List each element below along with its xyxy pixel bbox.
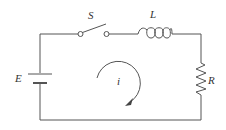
wire-top-left bbox=[40, 34, 78, 73]
current-label: i bbox=[117, 75, 120, 87]
switch-terminal-right bbox=[104, 32, 109, 37]
switch-terminal-left bbox=[78, 32, 83, 37]
battery bbox=[28, 74, 52, 83]
switch bbox=[78, 24, 109, 37]
arrowhead-icon bbox=[125, 98, 133, 106]
wires bbox=[40, 34, 201, 120]
resistor-label: R bbox=[207, 74, 215, 86]
inductor-label: L bbox=[149, 8, 156, 20]
source-label: E bbox=[14, 72, 22, 84]
inductor bbox=[138, 28, 172, 38]
wire-bottom bbox=[40, 84, 201, 120]
circuit-diagram: S L E R i bbox=[0, 0, 226, 130]
switch-label: S bbox=[88, 9, 94, 21]
wire-inductor-resistor bbox=[172, 34, 201, 63]
switch-blade bbox=[83, 24, 107, 33]
resistor bbox=[196, 63, 206, 95]
